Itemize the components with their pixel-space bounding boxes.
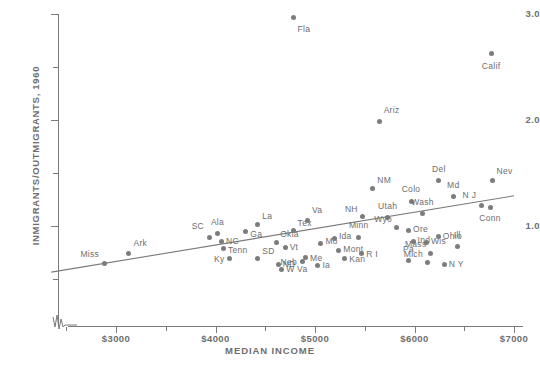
data-point-label: Okla — [280, 229, 299, 239]
data-point-label: N J — [463, 190, 477, 200]
data-point-label: Fla — [298, 24, 311, 34]
data-point-label: Neb — [281, 257, 298, 267]
data-point-label: Me — [310, 253, 322, 263]
data-point — [442, 262, 447, 267]
data-point-label: Va — [312, 205, 322, 215]
data-point — [102, 261, 107, 266]
data-point-label: Mass — [405, 239, 427, 249]
data-point-label: Md — [447, 180, 459, 190]
data-point — [356, 235, 361, 240]
data-point-label: NH — [345, 204, 358, 214]
data-point-label: Vt — [290, 242, 299, 252]
data-point — [406, 228, 411, 233]
data-point-label: NM — [377, 175, 391, 185]
data-point — [489, 51, 494, 56]
data-point — [305, 218, 310, 223]
data-point — [332, 236, 337, 241]
data-point — [425, 260, 430, 265]
data-point — [283, 245, 288, 250]
scatter-chart: 3.02.01.0 $3000$4000$5000$6000$7000 Miss… — [0, 0, 540, 369]
data-point-label: R I — [366, 249, 378, 259]
data-point-label: Ga — [250, 229, 262, 239]
data-point-label: Ala — [211, 217, 224, 227]
data-point-label: Wyo — [374, 214, 392, 224]
data-point-label: SC — [192, 221, 204, 231]
data-point-label: Mich — [404, 249, 423, 259]
data-point — [377, 119, 382, 124]
y-axis-title: INMIGRANTS/OUTMIGRANTS, 1960 — [30, 41, 41, 271]
data-point — [300, 259, 305, 264]
x-axis-title: MEDIAN INCOME — [0, 345, 540, 356]
data-point-label: Ky — [214, 254, 225, 264]
data-point — [291, 228, 296, 233]
plot-area: 3.02.01.0 $3000$4000$5000$6000$7000 Miss… — [0, 0, 540, 369]
data-point — [215, 231, 220, 236]
data-point-label: Tenn — [228, 245, 248, 255]
data-point — [219, 239, 224, 244]
data-point — [436, 234, 441, 239]
data-point — [291, 15, 296, 20]
data-point-label: La — [262, 211, 272, 221]
data-point-label: Ark — [133, 238, 147, 248]
data-point-label: Utah — [378, 201, 397, 211]
data-point-label: Ore — [413, 224, 428, 234]
data-point-label: SD — [262, 246, 274, 256]
data-point — [455, 244, 460, 249]
data-point — [488, 205, 493, 210]
data-point-label: Ariz — [384, 105, 400, 115]
data-point-label: Ill — [454, 230, 461, 240]
data-point-label: Nev — [497, 166, 513, 176]
data-point-label: Colo — [402, 184, 421, 194]
data-point-label: Conn — [479, 213, 501, 223]
data-point-label: Ia — [322, 260, 330, 270]
data-point-label: Del — [432, 164, 446, 174]
data-point-label: Calif — [482, 61, 501, 71]
data-point — [420, 211, 425, 216]
data-point-label: Wash — [411, 197, 434, 207]
data-point-label: Minn — [349, 220, 369, 230]
data-point-label: N Y — [449, 259, 464, 269]
data-point-label: Miss — [80, 249, 99, 259]
data-point-label: Ida — [339, 231, 352, 241]
